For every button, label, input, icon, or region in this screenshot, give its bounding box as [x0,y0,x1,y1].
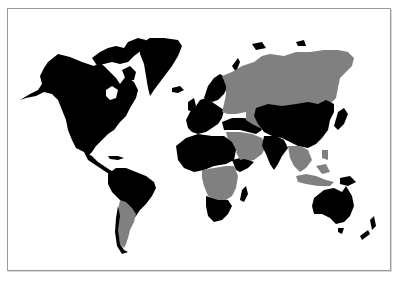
region-north-america [20,54,138,156]
region-southeast-asia [288,146,312,172]
region-madagascar [240,186,248,202]
region-india [262,136,288,170]
region-papua-new-guinea [340,176,356,186]
region-japan [334,108,348,130]
region-new-zealand [360,216,376,240]
region-canadian-arctic-islands [92,38,146,64]
region-australia [312,186,354,224]
region-central-america-caribbean [84,152,114,176]
region-indonesia [296,174,334,186]
region-russia [222,50,354,114]
world-map [0,0,399,282]
region-central-africa [202,166,238,200]
